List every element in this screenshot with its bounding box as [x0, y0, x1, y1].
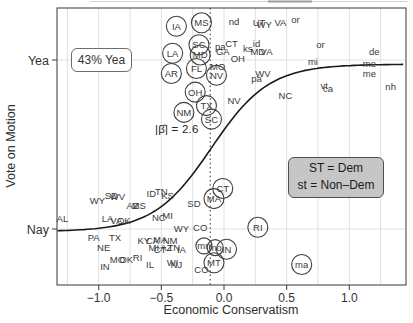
legend-box: ST = Dem st = Non–Dem — [288, 157, 384, 198]
point-label-WV: WV — [110, 191, 126, 202]
point-label-WY: WY — [90, 195, 106, 206]
x-tick-label: 1.0 — [341, 291, 358, 305]
point-label-WY: WY — [174, 223, 190, 234]
point-label-RI: RI — [133, 252, 143, 263]
point-label-NM: NM — [177, 107, 192, 118]
point-label-ca: ca — [323, 83, 334, 94]
point-label-OH: OH — [231, 53, 245, 64]
point-label-NV: NV — [227, 95, 241, 106]
point-label-IN: IN — [222, 244, 232, 255]
point-label-MO: MO — [210, 61, 225, 72]
point-label-LA: LA — [167, 48, 179, 59]
point-label-CO: CO — [193, 222, 207, 233]
point-label-AR: AR — [165, 68, 178, 79]
point-label-nh: nh — [385, 81, 396, 92]
point-label-SD: SD — [187, 198, 200, 209]
point-label-me: me — [363, 68, 376, 79]
y-tick-label: Yea — [28, 54, 49, 68]
point-label-NJ: NJ — [171, 259, 183, 270]
point-label-ma: ma — [295, 259, 309, 270]
point-label-VA: VA — [261, 46, 274, 57]
point-label-IA: IA — [177, 244, 187, 255]
point-label-mi: mi — [308, 56, 318, 67]
point-label-MS: MS — [194, 17, 208, 28]
point-label-NC: NC — [279, 90, 293, 101]
point-label-VA: VA — [274, 17, 287, 28]
point-label-AL: AL — [57, 213, 69, 224]
point-label-mo: mo — [209, 242, 222, 253]
point-label-OH: OH — [188, 87, 202, 98]
chart-container: −1.0−0.50.00.51.0YeaNayIAMSSCLAMDARFLNVO… — [0, 0, 413, 323]
point-label-MT: MT — [207, 257, 221, 268]
x-axis-title: Economic Conservatism — [131, 303, 331, 317]
point-label-or: or — [291, 14, 299, 25]
point-label-or: or — [316, 39, 324, 50]
point-label-NE: NE — [97, 242, 110, 253]
point-label-OK: OK — [117, 215, 131, 226]
legend-line-nondem: st = Non–Dem — [289, 177, 383, 194]
point-label-nd: nd — [229, 16, 240, 27]
y-tick-label: Nay — [27, 223, 50, 237]
point-label-de: de — [369, 46, 380, 57]
legend-line-dem: ST = Dem — [289, 160, 383, 177]
point-label-KS: KS — [161, 190, 174, 201]
point-label-MA: MA — [207, 193, 222, 204]
y-axis-title: Vote on Motion — [4, 76, 20, 216]
point-label-MS: MS — [132, 200, 146, 211]
point-label-pa: pa — [251, 73, 262, 84]
point-label-IN: IN — [100, 261, 110, 272]
point-label-TX: TX — [109, 232, 122, 243]
point-label-IL: IL — [146, 259, 154, 270]
point-label-MI: MI — [162, 210, 173, 221]
point-label-GA: GA — [216, 46, 230, 57]
point-label-WY: WY — [256, 19, 272, 30]
beta-estimate-annotation: |β̂| = 2.6 — [155, 123, 198, 135]
point-label-IA: IA — [172, 21, 182, 32]
logistic-curve — [57, 64, 403, 230]
point-label-FL: FL — [191, 63, 202, 74]
point-label-SC: SC — [205, 114, 218, 125]
point-label-OK: OK — [119, 254, 133, 265]
x-tick-label: −1.0 — [87, 291, 111, 305]
point-label-RI: RI — [253, 222, 263, 233]
yea-percentage-annotation: 43% Yea — [71, 48, 132, 72]
